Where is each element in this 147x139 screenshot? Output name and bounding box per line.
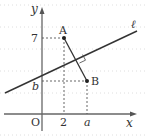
line-l [5, 31, 137, 93]
y-tick-b: b [32, 80, 39, 93]
x-axis-label: x [126, 116, 133, 130]
segment-ab [64, 38, 87, 81]
y-axis-label: y [30, 2, 38, 16]
y-axis-arrow-icon [40, 7, 45, 14]
point-b [85, 79, 89, 83]
projection-lines [42, 38, 87, 114]
x-tick-a: a [84, 116, 91, 129]
origin-label: O [31, 116, 40, 129]
line-l-label: ℓ [131, 18, 136, 31]
y-axis [40, 7, 45, 131]
y-tick-7: 7 [31, 32, 38, 45]
grid [0, 5, 147, 135]
x-tick-2: 2 [60, 116, 67, 129]
point-b-label: B [91, 75, 99, 88]
point-a-label: A [58, 24, 68, 37]
coordinate-diagram: y x O A B 7 b 2 a ℓ [0, 0, 147, 139]
diagram-canvas: y x O A B 7 b 2 a ℓ [0, 0, 147, 139]
x-axis [4, 112, 137, 117]
